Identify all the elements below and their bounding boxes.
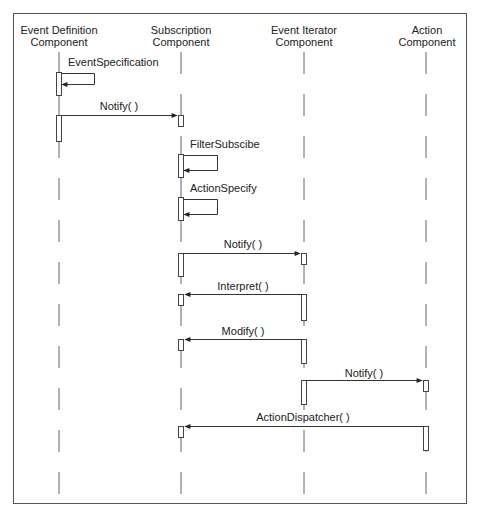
sequence-diagram: Event Definition Component Subscription … xyxy=(0,0,479,513)
lifeline-header-action: Action Component xyxy=(399,24,456,48)
activation-bar xyxy=(179,427,184,438)
lifeline-title-line1: Event Iterator xyxy=(271,24,337,36)
activation-bar xyxy=(179,295,184,306)
activation-bar xyxy=(302,295,307,321)
message-label: Notify( ) xyxy=(100,100,139,112)
lifeline-header-subscription: Subscription Component xyxy=(151,24,212,48)
message-label: Notify( ) xyxy=(224,238,263,250)
activation-bar xyxy=(302,340,307,364)
lifeline-title-line2: Component xyxy=(276,36,333,48)
lifeline-header-event-definition: Event Definition Component xyxy=(20,24,97,48)
activation-bar xyxy=(179,254,184,277)
activation-bar xyxy=(424,427,429,451)
message-label: FilterSubscibe xyxy=(190,138,260,150)
message-label: Notify( ) xyxy=(345,367,384,379)
lifeline-title-line1: Event Definition xyxy=(20,24,97,36)
lifeline-title-line1: Action xyxy=(412,24,443,36)
activation-bar xyxy=(179,155,184,178)
lifeline-title-line2: Component xyxy=(31,36,88,48)
lifeline-title-line1: Subscription xyxy=(151,24,212,36)
lifeline-title-line2: Component xyxy=(153,36,210,48)
message-label: EventSpecification xyxy=(68,56,159,68)
lifeline-header-event-iterator: Event Iterator Component xyxy=(271,24,337,48)
message-arrow-self xyxy=(184,200,218,215)
activation-bar xyxy=(57,73,62,96)
lifeline-title-line2: Component xyxy=(399,36,456,48)
activation-bar xyxy=(57,116,62,142)
activation-bar xyxy=(302,381,307,405)
activation-bar xyxy=(179,198,184,221)
activation-bar xyxy=(302,254,307,265)
message-arrow-self xyxy=(184,156,218,171)
activation-bar xyxy=(424,381,429,392)
message-label: Interpret( ) xyxy=(217,280,268,292)
message-arrow-self xyxy=(62,74,95,85)
activation-bar xyxy=(179,340,184,351)
activation-bar xyxy=(179,116,184,127)
diagram-frame xyxy=(14,14,467,504)
message-label: ActionSpecify xyxy=(190,182,257,194)
message-label: ActionDispatcher( ) xyxy=(256,411,350,423)
message-label: Modify( ) xyxy=(222,325,265,337)
